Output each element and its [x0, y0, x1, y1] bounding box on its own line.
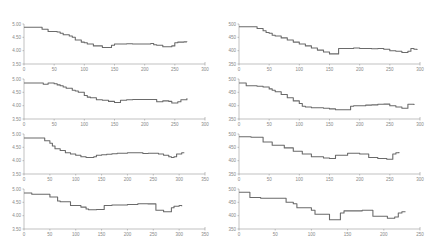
y-tick-label: 500	[228, 187, 236, 192]
chart-2-svg: 500450400350050100150200250300	[215, 18, 429, 73]
y-tick-label: 500	[228, 77, 236, 82]
x-tick-label: 250	[386, 67, 394, 72]
y-tick-label: 4.00	[12, 213, 21, 218]
x-tick-label: 200	[141, 67, 149, 72]
y-tick-label: 500	[228, 22, 236, 27]
x-tick-label: 250	[171, 122, 179, 127]
x-tick-label: 150	[98, 177, 106, 182]
y-tick-label: 3.50	[12, 62, 21, 67]
y-tick-label: 5.00	[12, 22, 21, 27]
y-tick-label: 450	[228, 90, 236, 95]
x-tick-label: 350	[201, 232, 209, 237]
y-tick-label: 5.00	[12, 132, 21, 137]
x-tick-label: 200	[356, 177, 364, 182]
x-tick-label: 50	[52, 67, 58, 72]
x-tick-label: 200	[356, 67, 364, 72]
x-tick-label: 250	[386, 177, 394, 182]
x-tick-label: 250	[171, 67, 179, 72]
chart-7: 5.004.504.003.50050100150200250300350	[0, 183, 214, 238]
x-tick-label: 100	[296, 67, 304, 72]
x-tick-label: 300	[416, 122, 424, 127]
x-tick-label: 100	[81, 122, 89, 127]
chart-5: 5.004.504.003.50050100150200250300350	[0, 128, 214, 183]
x-tick-label: 150	[98, 232, 106, 237]
chart-1: 5.004.504.003.50050100150200250300	[0, 18, 214, 73]
x-tick-label: 50	[267, 122, 273, 127]
y-tick-label: 350	[228, 62, 236, 67]
y-tick-label: 5.00	[12, 77, 21, 82]
y-tick-label: 5.00	[12, 187, 21, 192]
x-tick-label: 150	[111, 67, 119, 72]
y-tick-label: 4.50	[12, 200, 21, 205]
y-tick-label: 4.50	[12, 35, 21, 40]
y-tick-label: 4.50	[12, 90, 21, 95]
data-line	[24, 83, 187, 103]
y-tick-label: 450	[228, 200, 236, 205]
y-tick-label: 400	[228, 213, 236, 218]
x-tick-label: 100	[296, 122, 304, 127]
x-tick-label: 0	[23, 122, 26, 127]
x-tick-label: 300	[416, 177, 424, 182]
x-tick-label: 0	[23, 67, 26, 72]
x-tick-label: 250	[416, 232, 424, 237]
x-tick-label: 150	[326, 67, 334, 72]
data-line	[24, 138, 184, 158]
x-tick-label: 150	[326, 122, 334, 127]
x-tick-label: 0	[23, 177, 26, 182]
x-tick-label: 100	[72, 232, 80, 237]
axis-lines	[239, 189, 420, 229]
x-tick-label: 200	[124, 177, 132, 182]
chart-4-svg: 500450400350050100150200250300	[215, 73, 429, 128]
chart-3: 5.004.504.003.50050100150200250300	[0, 73, 214, 128]
x-tick-label: 0	[238, 67, 241, 72]
x-tick-label: 150	[326, 177, 334, 182]
x-tick-label: 200	[124, 232, 132, 237]
y-tick-label: 400	[228, 48, 236, 53]
x-tick-label: 300	[201, 67, 209, 72]
x-tick-label: 100	[296, 177, 304, 182]
y-tick-label: 4.50	[12, 145, 21, 150]
x-tick-label: 250	[150, 177, 158, 182]
chart-8: 500450400350050100150200250	[215, 183, 429, 238]
axis-lines	[24, 189, 205, 229]
y-tick-label: 450	[228, 35, 236, 40]
y-tick-label: 350	[228, 172, 236, 177]
data-line	[239, 137, 399, 160]
chart-3-svg: 5.004.504.003.50050100150200250300	[0, 73, 214, 128]
x-tick-label: 50	[267, 177, 273, 182]
y-tick-label: 3.50	[12, 117, 21, 122]
chart-grid: 5.004.504.003.50050100150200250300 50045…	[0, 0, 429, 248]
chart-1-svg: 5.004.504.003.50050100150200250300	[0, 18, 214, 73]
chart-6-svg: 500450400350050100150200250300	[215, 128, 429, 183]
x-tick-label: 200	[356, 122, 364, 127]
x-tick-label: 50	[273, 232, 279, 237]
x-tick-label: 0	[23, 232, 26, 237]
y-tick-label: 350	[228, 117, 236, 122]
y-tick-label: 500	[228, 132, 236, 137]
chart-8-svg: 500450400350050100150200250	[215, 183, 429, 238]
x-tick-label: 300	[175, 232, 183, 237]
data-line	[24, 193, 182, 212]
x-tick-label: 150	[111, 122, 119, 127]
x-tick-label: 0	[238, 232, 241, 237]
x-tick-label: 350	[201, 177, 209, 182]
chart-2: 500450400350050100150200250300	[215, 18, 429, 73]
x-tick-label: 50	[52, 122, 58, 127]
y-tick-label: 3.50	[12, 227, 21, 232]
data-line	[24, 27, 187, 47]
x-tick-label: 50	[47, 232, 53, 237]
chart-5-svg: 5.004.504.003.50050100150200250300350	[0, 128, 214, 183]
x-tick-label: 150	[344, 232, 352, 237]
x-tick-label: 200	[141, 122, 149, 127]
x-tick-label: 300	[416, 67, 424, 72]
axis-lines	[239, 79, 420, 119]
y-tick-label: 350	[228, 227, 236, 232]
data-line	[239, 192, 406, 220]
chart-6: 500450400350050100150200250300	[215, 128, 429, 183]
y-tick-label: 4.00	[12, 103, 21, 108]
x-tick-label: 50	[47, 177, 53, 182]
x-tick-label: 0	[238, 177, 241, 182]
data-line	[239, 83, 414, 110]
x-tick-label: 250	[150, 232, 158, 237]
data-line	[239, 27, 417, 54]
